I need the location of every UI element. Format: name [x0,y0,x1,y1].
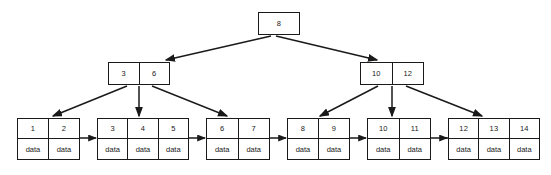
leaf-payload: data [18,139,48,159]
leaf-key: 7 [239,119,270,139]
leaf-cell: 8 data [288,119,318,159]
leaf-payload: data [510,139,539,159]
leaf-cell: 2 data [48,119,79,159]
node-key: 12 [393,63,424,84]
leaf-payload: data [449,139,478,159]
leaf-cell: 4 data [127,119,157,159]
node-key: 8 [259,13,299,34]
leaf-cell: 7 data [238,119,270,159]
leaf-payload: data [319,139,349,159]
pointer-internal-right-to-leaf-6 [406,86,482,116]
pointer-internal-right-to-leaf-4 [320,86,378,116]
leaf-cell: 6 data [207,119,238,159]
leaf-key: 4 [128,119,157,139]
leaf-key: 11 [400,119,431,139]
leaf-key: 8 [288,119,318,139]
node-root: 8 [258,12,300,35]
leaf-payload: data [288,139,318,159]
pointer-root-to-internal-right [276,36,377,60]
leaf-payload: data [368,139,399,159]
leaf-key: 3 [98,119,127,139]
node-leaf-5: 10 data 11 data [367,118,431,160]
leaf-cell: 3 data [98,119,127,159]
leaf-payload: data [207,139,238,159]
leaf-key: 10 [368,119,399,139]
leaf-payload: data [98,139,127,159]
leaf-key: 12 [449,119,478,139]
leaf-payload: data [239,139,270,159]
pointer-internal-left-to-leaf-1 [53,86,127,116]
node-cell: 10 [361,63,392,84]
leaf-key: 6 [207,119,238,139]
leaf-key: 2 [49,119,79,139]
leaf-key: 5 [159,119,188,139]
leaf-cell: 14 data [509,119,539,159]
leaf-key: 14 [510,119,539,139]
node-internal-left: 3 6 [108,62,170,85]
node-leaf-3: 6 data 7 data [206,118,270,160]
node-leaf-1: 1 data 2 data [17,118,80,160]
leaf-cell: 11 data [399,119,431,159]
leaf-payload: data [479,139,508,159]
leaf-cell: 5 data [158,119,188,159]
leaf-cell: 10 data [368,119,399,159]
leaf-payload: data [128,139,157,159]
node-cell: 8 [259,13,299,34]
leaf-key: 9 [319,119,349,139]
node-leaf-2: 3 data 4 data 5 data [97,118,189,160]
node-leaf-6: 12 data 13 data 14 data [448,118,540,160]
leaf-payload: data [49,139,79,159]
leaf-payload: data [400,139,431,159]
node-key: 3 [109,63,139,84]
leaf-cell: 1 data [18,119,48,159]
leaf-cell: 13 data [478,119,508,159]
node-cell: 6 [139,63,170,84]
pointer-internal-left-to-leaf-3 [152,86,227,116]
node-key: 6 [140,63,170,84]
leaf-cell: 12 data [449,119,478,159]
b-plus-tree-diagram: 8 3 6 10 12 1 data 2 data 3 data [0,0,551,175]
node-cell: 3 [109,63,139,84]
node-cell: 12 [392,63,424,84]
node-key: 10 [361,63,392,84]
node-leaf-4: 8 data 9 data [287,118,350,160]
leaf-key: 1 [18,119,48,139]
leaf-key: 13 [479,119,508,139]
pointer-root-to-internal-left [166,36,271,60]
leaf-cell: 9 data [318,119,349,159]
node-internal-right: 10 12 [360,62,424,85]
leaf-payload: data [159,139,188,159]
